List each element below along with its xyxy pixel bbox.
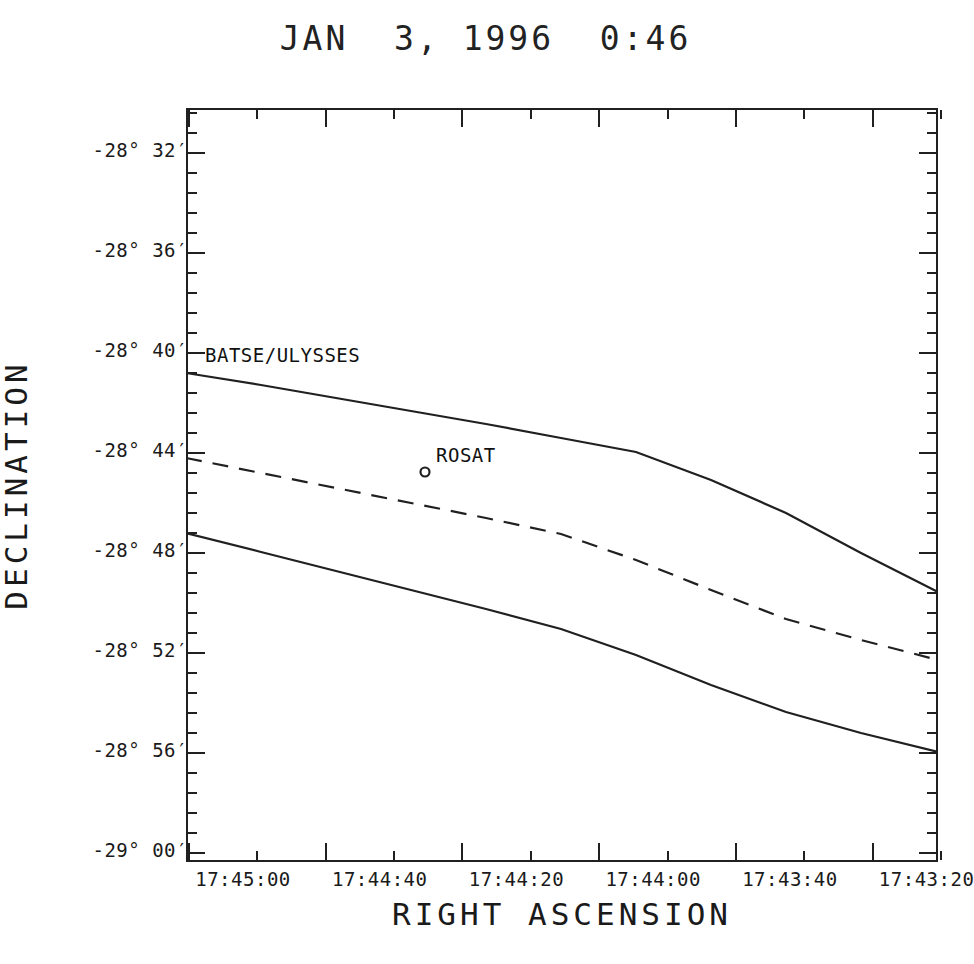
y-tick-label-6: -28° 56′ — [92, 739, 188, 761]
x-axis-title: RIGHT ASCENSION — [186, 896, 938, 932]
y-tick-label-7: -29° 00′ — [92, 839, 188, 861]
y-tick-label-1: -28° 36′ — [92, 239, 188, 261]
y-tick-label-2: -28° 40′ — [92, 339, 188, 361]
series-group — [186, 373, 938, 752]
marker-rosat — [421, 468, 430, 477]
plot-data-area — [186, 108, 938, 862]
x-tick-label-5: 17:43:20 — [879, 868, 974, 890]
series-line-0 — [186, 373, 938, 592]
x-tick-label-3: 17:44:00 — [605, 868, 701, 890]
y-axis-title: DECLINATION — [0, 360, 34, 609]
y-tick-label-3: -28° 44′ — [92, 439, 188, 461]
batse-ulysses-label: BATSE/ULYSSES — [205, 344, 360, 366]
y-tick-label-4: -28° 48′ — [92, 539, 188, 561]
series-line-2 — [186, 533, 938, 752]
chart-title: JAN 3, 1996 0:46 — [0, 19, 971, 58]
x-tick-label-4: 17:43:40 — [742, 868, 838, 890]
y-tick-label-5: -28° 52′ — [92, 639, 188, 661]
x-tick-top-11 — [940, 110, 942, 119]
x-tick-label-0: 17:45:00 — [195, 868, 291, 890]
x-tick-label-1: 17:44:40 — [332, 868, 428, 890]
x-tick-bottom-11 — [940, 851, 942, 860]
y-tick-label-0: -28° 32′ — [92, 139, 188, 161]
rosat-label: ROSAT — [436, 444, 496, 466]
x-tick-label-2: 17:44:20 — [469, 868, 565, 890]
marker-group — [421, 468, 430, 477]
